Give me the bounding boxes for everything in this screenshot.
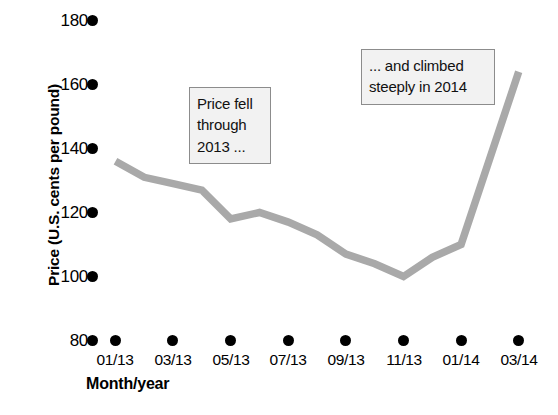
y-tick-marker-140: [87, 143, 98, 154]
x-tick-marker-0513: [225, 335, 236, 346]
x-tick-label-0113: 01/13: [85, 351, 145, 369]
x-tick-label-0114: 01/14: [431, 351, 491, 369]
y-tick-marker-120: [87, 207, 98, 218]
x-tick-marker-0713: [283, 335, 294, 346]
x-tick-label-0314: 03/14: [489, 351, 549, 369]
y-tick-label-140: 140: [46, 139, 88, 159]
annotation-price-fell: Price fell through 2013 ...: [189, 87, 271, 164]
annotation-price-fell-line-3: 2013 ...: [197, 136, 263, 157]
x-tick-marker-0313: [167, 335, 178, 346]
line-chart: Price (U.S. cents per pound) 180 160 140…: [0, 0, 558, 415]
x-tick-label-1113: 11/13: [374, 351, 434, 369]
x-tick-marker-0314: [513, 335, 524, 346]
x-tick-marker-0113: [110, 335, 121, 346]
annotation-climbed-steeply-line-1: ... and climbed: [369, 55, 487, 76]
x-tick-label-0713: 07/13: [258, 351, 318, 369]
y-tick-marker-100: [87, 271, 98, 282]
annotation-price-fell-line-2: through: [197, 114, 263, 135]
y-tick-marker-80: [87, 335, 98, 346]
annotation-climbed-steeply-line-2: steeply in 2014: [369, 76, 487, 97]
x-tick-marker-0913: [340, 335, 351, 346]
x-tick-marker-1113: [398, 335, 409, 346]
x-tick-marker-0114: [456, 335, 467, 346]
annotation-price-fell-line-1: Price fell: [197, 93, 263, 114]
x-tick-label-0313: 03/13: [143, 351, 203, 369]
x-tick-label-0913: 09/13: [316, 351, 376, 369]
y-tick-label-160: 160: [46, 75, 88, 95]
y-tick-label-120: 120: [46, 203, 88, 223]
y-tick-label-80: 80: [46, 331, 88, 351]
x-tick-label-0513: 05/13: [201, 351, 261, 369]
y-tick-marker-160: [87, 79, 98, 90]
annotation-climbed-steeply: ... and climbed steeply in 2014: [361, 49, 495, 105]
x-axis-title: Month/year: [86, 375, 169, 393]
y-tick-label-180: 180: [46, 11, 88, 31]
y-tick-label-100: 100: [46, 267, 88, 287]
y-tick-marker-180: [87, 15, 98, 26]
